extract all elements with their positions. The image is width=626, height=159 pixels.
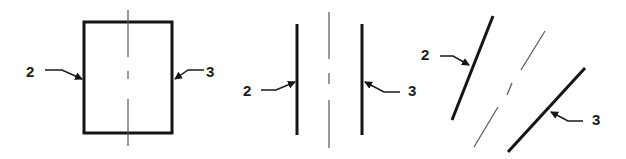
inclined-line-3	[508, 68, 585, 152]
centerline-inclined	[474, 31, 545, 147]
label-3: 3	[206, 63, 214, 80]
leader-arrow-2b	[261, 82, 295, 90]
label-2c: 2	[421, 46, 429, 63]
leader-arrow-3b	[365, 82, 400, 92]
label-2: 2	[26, 63, 34, 80]
leader-arrow-3	[175, 70, 204, 79]
label-3c: 3	[592, 111, 600, 128]
panel-vertical-lines: 2 3	[243, 12, 416, 148]
panel-inclined-lines: 2 3	[421, 16, 600, 152]
label-3b: 3	[408, 82, 416, 99]
diagram-canvas: 2 3 2 3 2 3	[0, 0, 626, 159]
leader-arrow-3c	[551, 112, 583, 121]
leader-arrow-2	[45, 70, 82, 79]
leader-arrow-2c	[440, 56, 469, 65]
panel-rectangle: 2 3	[26, 10, 214, 146]
inclined-line-2	[452, 16, 493, 120]
label-2b: 2	[243, 82, 251, 99]
